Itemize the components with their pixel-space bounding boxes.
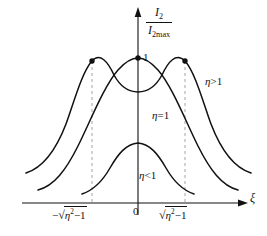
plot-canvas [0,0,267,236]
y-axis-label: I2 I2max [146,6,172,39]
y-axis [135,7,142,215]
radicand-tail: −1 [74,209,86,221]
y-tick-label-one: 1 [143,52,149,63]
x-axis-label: ξ [250,192,255,204]
x-tick-label-negative-sqrt: −√η2−1 [52,206,87,223]
annotation-eta-greater-than-one: η>1 [205,76,222,87]
annotation-eta-less-than-one: η<1 [139,170,156,181]
annotation-eta-equals-one: η=1 [152,110,169,121]
x-tick-label-positive-sqrt: √η2−1 [159,206,187,223]
center-dot [135,55,140,60]
eta-relation: >1 [210,75,222,87]
right-peak-dot [182,58,187,63]
eta-relation: <1 [144,169,156,181]
left-peak-dot [89,58,94,63]
origin-label: 0 [133,206,139,217]
y-denominator-subscript: 2max [152,30,170,39]
eta-relation: =1 [157,109,169,121]
physics-plot-figure: I2 I2max 1 0 ξ η>1 η=1 η<1 −√η2−1 √η2−1 [0,0,267,236]
y-numerator-subscript: 2 [159,12,163,21]
radicand-tail: −1 [175,209,187,221]
